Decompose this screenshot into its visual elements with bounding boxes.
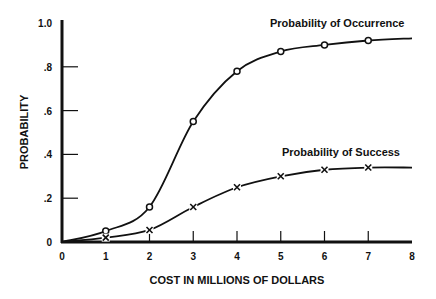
y-tick-label: 1.0 [38, 18, 52, 29]
x-marker [102, 234, 110, 242]
x-tick-label: 1 [103, 251, 109, 262]
x-marker [189, 203, 197, 211]
curves [62, 38, 412, 242]
series-line-1 [62, 167, 412, 242]
circle-marker [190, 119, 196, 125]
x-marker [364, 164, 372, 172]
y-tick-label: .6 [44, 106, 53, 117]
x-tick-label: 4 [234, 251, 240, 262]
x-marker [146, 226, 154, 234]
x-tick-label: 8 [409, 251, 415, 262]
circle-marker [147, 204, 153, 210]
probability-chart: 0123456780.2.4.6.81.0 Probability of Occ… [0, 0, 436, 299]
circle-marker [322, 42, 328, 48]
x-marker [233, 183, 241, 191]
x-tick-label: 6 [322, 251, 328, 262]
series-label-occurrence: Probability of Occurrence [270, 17, 404, 29]
y-tick-label: .4 [44, 149, 53, 160]
x-marker [277, 172, 285, 180]
y-tick-label: .8 [44, 62, 53, 73]
y-tick-label: .2 [44, 193, 53, 204]
series-label-success: Probability of Success [282, 146, 400, 158]
x-marker [321, 166, 329, 174]
circle-marker [365, 38, 371, 44]
x-tick-label: 0 [59, 251, 65, 262]
y-tick-label: 0 [46, 237, 52, 248]
y-axis-label: PROBABILITY [18, 94, 30, 169]
x-axis-label: COST IN MILLIONS OF DOLLARS [150, 274, 325, 286]
x-tick-label: 3 [190, 251, 196, 262]
circle-marker [234, 68, 240, 74]
circle-marker [103, 228, 109, 234]
x-tick-label: 5 [278, 251, 284, 262]
axes: 0123456780.2.4.6.81.0 [38, 18, 415, 262]
x-tick-label: 7 [365, 251, 371, 262]
x-tick-label: 2 [147, 251, 153, 262]
circle-marker [278, 48, 284, 54]
